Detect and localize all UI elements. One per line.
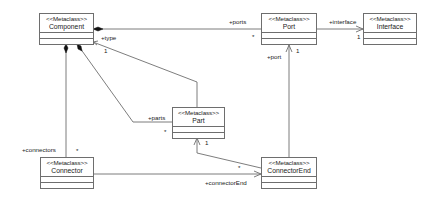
role-label-interface: +interface bbox=[329, 19, 356, 25]
multiplicity-connectors: * bbox=[76, 148, 78, 154]
operations-compartment bbox=[40, 39, 93, 45]
stereotype-label: <<Metaclass>> bbox=[262, 160, 316, 166]
class-connectorend[interactable]: <<Metaclass>> ConnectorEnd bbox=[261, 157, 317, 189]
multiplicity-interface: 1 bbox=[357, 34, 360, 40]
role-label-ports: +ports bbox=[229, 19, 246, 25]
class-name: ConnectorEnd bbox=[262, 168, 316, 175]
stereotype-label: <<Metaclass>> bbox=[41, 160, 93, 166]
class-connector[interactable]: <<Metaclass>> Connector bbox=[40, 157, 94, 189]
operations-compartment bbox=[262, 183, 316, 189]
stereotype-label: <<Metaclass>> bbox=[173, 110, 224, 116]
multiplicity-connectorend-source: * bbox=[238, 165, 240, 171]
multiplicity-ports: * bbox=[252, 34, 254, 40]
stereotype-label: <<Metaclass>> bbox=[262, 16, 316, 22]
role-label-connectors: +connectors bbox=[22, 147, 56, 153]
uml-diagram-canvas: <<Metaclass>> Component <<Metaclass>> Po… bbox=[0, 0, 437, 203]
stereotype-label: <<Metaclass>> bbox=[364, 16, 416, 22]
role-label-parts: +parts bbox=[148, 115, 165, 121]
composition-diamond-icon bbox=[93, 27, 103, 31]
class-component[interactable]: <<Metaclass>> Component bbox=[39, 13, 94, 45]
assoc-part-type bbox=[93, 42, 197, 107]
operations-compartment bbox=[364, 39, 416, 45]
assoc-component-parts bbox=[80, 48, 172, 122]
multiplicity-part-end: 1 bbox=[205, 140, 208, 146]
role-label-connectorend: +connectorEnd bbox=[205, 180, 247, 186]
class-name: Part bbox=[173, 118, 224, 125]
multiplicity-port: 1 bbox=[296, 48, 299, 54]
class-interface[interactable]: <<Metaclass>> Interface bbox=[363, 13, 417, 45]
class-port[interactable]: <<Metaclass>> Port bbox=[261, 13, 317, 45]
class-part[interactable]: <<Metaclass>> Part bbox=[172, 107, 225, 139]
operations-compartment bbox=[173, 133, 224, 139]
class-name: Port bbox=[262, 24, 316, 31]
class-name: Component bbox=[40, 24, 93, 31]
composition-diamond-icon bbox=[64, 44, 68, 53]
role-label-port: +port bbox=[267, 54, 281, 60]
operations-compartment bbox=[41, 183, 93, 189]
stereotype-label: <<Metaclass>> bbox=[40, 16, 93, 22]
class-name: Connector bbox=[41, 168, 93, 175]
composition-diamond-icon bbox=[77, 44, 82, 51]
class-name: Interface bbox=[364, 24, 416, 31]
role-label-type: +type bbox=[101, 35, 116, 41]
multiplicity-parts: * bbox=[164, 129, 166, 135]
operations-compartment bbox=[262, 39, 316, 45]
multiplicity-type: 1 bbox=[104, 48, 107, 54]
